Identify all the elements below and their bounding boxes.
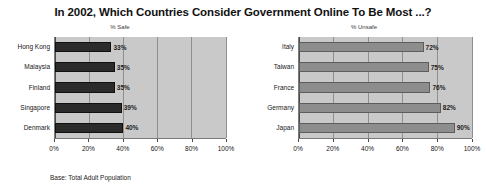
x-tick-label: 20% xyxy=(326,146,339,153)
bar-value-label: 40% xyxy=(125,124,138,131)
category-label: Singapore xyxy=(4,105,50,112)
bar-row: 39% xyxy=(55,103,226,113)
bar-value-label: 33% xyxy=(113,44,126,51)
chart-panel-unsafe: % Unsafe 72%75%76%82%90% ItalyTaiwanFran… xyxy=(246,24,482,159)
category-label: Malaysia xyxy=(4,64,50,71)
bar xyxy=(299,103,441,113)
bar xyxy=(55,103,122,113)
bar xyxy=(299,123,455,133)
bar-row: 35% xyxy=(55,62,226,72)
chart-panel-safe: % Safe 33%35%35%39%40% Hong KongMalaysia… xyxy=(4,24,236,159)
bar-row: 82% xyxy=(299,103,472,113)
x-tickmark xyxy=(226,139,227,142)
bar-value-label: 82% xyxy=(443,104,456,111)
x-tickmark xyxy=(472,139,473,142)
plot-area-safe: 33%35%35%39%40% xyxy=(54,37,226,139)
bar xyxy=(55,42,111,52)
x-tickmark xyxy=(402,139,403,142)
x-tick-label: 40% xyxy=(361,146,374,153)
bar-value-label: 76% xyxy=(432,84,445,91)
category-label: Japan xyxy=(246,125,294,132)
category-label: Hong Kong xyxy=(4,44,50,51)
bar-row: 76% xyxy=(299,82,472,92)
bar-value-label: 72% xyxy=(426,44,439,51)
x-tickmark xyxy=(54,139,55,142)
chart-figure: In 2002, Which Countries Consider Govern… xyxy=(0,0,486,193)
x-tick-label: 60% xyxy=(396,146,409,153)
bar xyxy=(299,62,429,72)
panel-subtitle-safe: % Safe xyxy=(4,24,236,30)
category-label: Finland xyxy=(4,85,50,92)
bar-row: 33% xyxy=(55,42,226,52)
bar xyxy=(299,82,430,92)
x-tick-label: 100% xyxy=(218,146,235,153)
bar-value-label: 35% xyxy=(117,84,130,91)
x-tickmark xyxy=(333,139,334,142)
x-tick-label: 80% xyxy=(185,146,198,153)
bar-value-label: 90% xyxy=(457,124,470,131)
bar-value-label: 35% xyxy=(117,64,130,71)
x-tick-label: 20% xyxy=(82,146,95,153)
x-tickmark xyxy=(123,139,124,142)
bar-row: 90% xyxy=(299,123,472,133)
x-tickmark xyxy=(368,139,369,142)
category-label: Taiwan xyxy=(246,64,294,71)
footnote: Base: Total Adult Population xyxy=(50,174,131,181)
plot-area-unsafe: 72%75%76%82%90% xyxy=(298,37,472,139)
bar-row: 40% xyxy=(55,123,226,133)
category-label: Italy xyxy=(246,44,294,51)
bar-rows-unsafe: 72%75%76%82%90% xyxy=(299,37,472,138)
category-label: Germany xyxy=(246,105,294,112)
bar-row: 75% xyxy=(299,62,472,72)
bar xyxy=(55,123,123,133)
x-tick-label: 100% xyxy=(464,146,481,153)
chart-title: In 2002, Which Countries Consider Govern… xyxy=(0,6,486,18)
bar xyxy=(55,62,115,72)
x-tick-label: 40% xyxy=(116,146,129,153)
bar-value-label: 39% xyxy=(124,104,137,111)
bar-row: 35% xyxy=(55,82,226,92)
x-tick-label: 0% xyxy=(293,146,302,153)
bar-rows-safe: 33%35%35%39%40% xyxy=(55,37,226,138)
x-tickmark xyxy=(298,139,299,142)
x-tick-label: 60% xyxy=(151,146,164,153)
x-tickmark xyxy=(192,139,193,142)
category-label: Denmark xyxy=(4,125,50,132)
bar xyxy=(299,42,424,52)
x-tick-label: 80% xyxy=(431,146,444,153)
bar-value-label: 75% xyxy=(431,64,444,71)
category-label: France xyxy=(246,85,294,92)
x-tickmark xyxy=(157,139,158,142)
panel-subtitle-unsafe: % Unsafe xyxy=(246,24,482,30)
x-tickmark xyxy=(88,139,89,142)
bar-row: 72% xyxy=(299,42,472,52)
x-tickmark xyxy=(437,139,438,142)
bar xyxy=(55,82,115,92)
x-tick-label: 0% xyxy=(49,146,58,153)
